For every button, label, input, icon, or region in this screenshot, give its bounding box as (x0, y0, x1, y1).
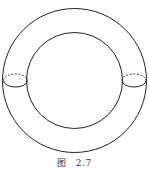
left-ellipse-front (4, 81, 28, 88)
right-ellipse-back-dashed (122, 74, 146, 81)
figure-caption: 图2.7 (0, 156, 149, 169)
right-cross-section (122, 74, 146, 87)
inner-circle (27, 33, 123, 129)
left-cross-section (4, 74, 28, 87)
right-ellipse-front (122, 81, 146, 88)
caption-label: 图 (57, 158, 67, 168)
left-ellipse-back-dashed (4, 74, 28, 81)
torus-figure (0, 0, 149, 170)
outer-circle (3, 9, 147, 153)
caption-number: 2.7 (76, 158, 92, 168)
